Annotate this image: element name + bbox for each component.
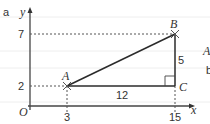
x-axis — [28, 104, 195, 109]
x-tick-3: 3 — [64, 111, 70, 123]
origin-label: O — [19, 105, 28, 119]
guide-lines — [30, 34, 175, 112]
edge-fragment-1: A — [202, 44, 210, 58]
y-tick-2: 2 — [18, 80, 24, 92]
triangle-diagram: a y x O 7 2 3 15 A B C 12 5 A b — [0, 0, 210, 124]
point-c-label: C — [179, 80, 188, 94]
y-axis-label: y — [19, 5, 26, 19]
y-axis — [28, 7, 33, 110]
point-b-label: B — [170, 17, 178, 31]
y-axis-arrow-icon — [28, 7, 33, 13]
side-bc-length: 5 — [178, 54, 184, 66]
y-tick-7: 7 — [18, 28, 24, 40]
x-tick-15: 15 — [169, 111, 181, 123]
x-axis-label: x — [190, 103, 197, 117]
side-ab — [67, 34, 175, 86]
point-a-label: A — [61, 69, 70, 83]
edge-fragment-2: b — [206, 64, 210, 76]
part-label: a — [3, 6, 10, 18]
triangle-abc — [67, 34, 175, 86]
side-ac-length: 12 — [116, 89, 128, 101]
right-angle-marker — [165, 76, 175, 86]
